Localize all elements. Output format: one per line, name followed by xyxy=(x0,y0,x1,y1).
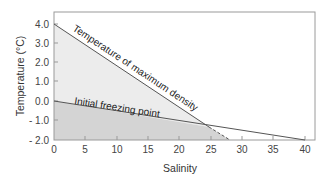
svg-text:0.0: 0.0 xyxy=(35,96,49,107)
y-axis-label: Temperature (°C) xyxy=(14,36,26,117)
svg-text:10: 10 xyxy=(111,144,123,155)
x-axis-label: Salinity xyxy=(163,162,198,174)
svg-text:15: 15 xyxy=(142,144,154,155)
x-tick-labels: 0 5 10 15 20 25 30 35 40 xyxy=(51,144,311,155)
svg-text:- 2.0: - 2.0 xyxy=(29,135,49,146)
svg-text:3.0: 3.0 xyxy=(35,38,49,49)
svg-text:0: 0 xyxy=(51,144,57,155)
svg-text:25: 25 xyxy=(205,144,217,155)
svg-text:35: 35 xyxy=(267,144,279,155)
svg-text:40: 40 xyxy=(299,144,311,155)
svg-text:4.0: 4.0 xyxy=(35,19,49,30)
chart: Temperature of maximum density Initial f… xyxy=(0,0,329,182)
y-tick-labels: 4.0 3.0 2.0 1.0 0.0 - 1.0 - 2.0 xyxy=(29,19,49,146)
svg-text:2.0: 2.0 xyxy=(35,57,49,68)
svg-text:- 1.0: - 1.0 xyxy=(29,115,49,126)
svg-text:5: 5 xyxy=(82,144,88,155)
svg-text:20: 20 xyxy=(173,144,185,155)
svg-text:30: 30 xyxy=(236,144,248,155)
svg-text:1.0: 1.0 xyxy=(35,76,49,87)
